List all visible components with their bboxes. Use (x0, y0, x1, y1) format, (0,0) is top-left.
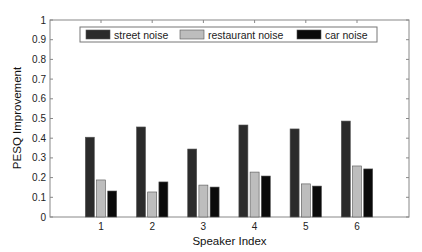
bar (313, 186, 322, 217)
bar (341, 121, 350, 217)
bar (188, 149, 197, 217)
y-tick-label: 0.2 (32, 172, 46, 183)
y-tick-label: 0.1 (32, 192, 46, 203)
legend-swatch (180, 30, 204, 39)
x-tick-label: 3 (201, 221, 207, 232)
legend-label: restaurant noise (208, 29, 283, 41)
x-tick-label: 4 (252, 221, 258, 232)
bar (250, 172, 259, 217)
bar (210, 187, 219, 217)
y-tick-label: 0 (40, 212, 46, 223)
bar (97, 180, 106, 217)
y-axis-label: PESQ Improvement (11, 66, 23, 169)
legend-swatch (86, 30, 110, 39)
bar (85, 137, 94, 217)
bar (239, 125, 248, 217)
x-axis-label: Speaker Index (192, 235, 266, 247)
legend-label: street noise (114, 29, 168, 41)
bar-chart: 00.10.20.30.40.50.60.70.80.91 123456 str… (0, 0, 422, 252)
y-tick-label: 0.7 (32, 74, 46, 85)
y-tick-label: 0.5 (32, 113, 46, 124)
bar (290, 129, 299, 217)
bar (364, 169, 373, 217)
y-tick-label: 0.8 (32, 54, 46, 65)
x-tick-label: 6 (354, 221, 360, 232)
x-tick-label: 5 (303, 221, 309, 232)
y-tick-label: 0.4 (32, 133, 46, 144)
bar (137, 127, 146, 217)
bar (353, 166, 362, 217)
legend-swatch (297, 30, 321, 39)
y-tick-label: 0.3 (32, 152, 46, 163)
x-tick-label: 1 (98, 221, 104, 232)
legend-label: car noise (325, 29, 368, 41)
bar (108, 191, 117, 217)
x-tick-label: 2 (149, 221, 155, 232)
bar (148, 192, 157, 217)
bar (301, 184, 310, 217)
bar (199, 185, 208, 217)
y-tick-label: 0.9 (32, 34, 46, 45)
y-tick-label: 0.6 (32, 93, 46, 104)
legend: street noiserestaurant noisecar noise (80, 27, 377, 42)
y-tick-label: 1 (40, 15, 46, 26)
bar (159, 182, 168, 217)
bar (261, 176, 270, 217)
